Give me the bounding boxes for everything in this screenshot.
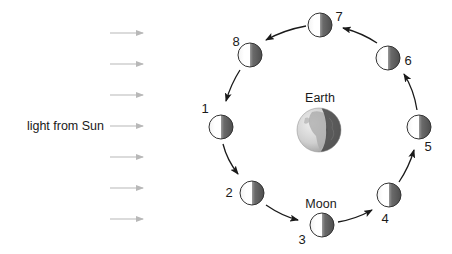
light-from-sun-label: light from Sun — [27, 120, 104, 133]
moon-phase-2-icon — [240, 181, 264, 205]
moon-phase-4-icon — [377, 183, 401, 207]
moon-position-number-8: 8 — [232, 35, 239, 48]
orbit-arrow-8-to-1-icon — [226, 70, 240, 101]
sunlight-arrows — [110, 33, 143, 219]
orbit-arrow-3-to-4-icon — [338, 210, 372, 222]
moon-phase-7-icon — [308, 13, 332, 37]
moon-label: Moon — [305, 198, 336, 211]
moon-phase-3-icon — [310, 213, 334, 237]
orbit-arrow-7-to-8-icon — [266, 26, 306, 40]
moon-position-number-7: 7 — [335, 10, 342, 23]
orbit-arrow-1-to-2-icon — [223, 144, 238, 174]
earth-globe-icon — [297, 107, 345, 153]
moon-position-number-4: 4 — [381, 212, 388, 225]
moon-phase-5-icon — [407, 115, 431, 139]
orbit-arrow-2-to-3-icon — [266, 205, 298, 220]
moon-phase-8-icon — [238, 43, 262, 67]
orbit-arrow-4-to-5-icon — [399, 150, 414, 182]
orbit-arrow-5-to-6-icon — [404, 74, 417, 110]
moon-position-number-3: 3 — [298, 233, 305, 246]
moon-position-number-1: 1 — [201, 102, 208, 115]
moon-phases-diagram: light from Sun Earth Moon 1 2 3 4 5 6 7 … — [0, 0, 452, 254]
moon-phase-6-icon — [376, 46, 400, 70]
moon-position-number-5: 5 — [424, 140, 431, 153]
earth-label: Earth — [305, 92, 335, 105]
moon-position-number-6: 6 — [404, 54, 411, 67]
moon-position-number-2: 2 — [225, 186, 232, 199]
moon-phase-1-icon — [209, 115, 233, 139]
orbit-arrow-6-to-7-icon — [343, 28, 377, 43]
